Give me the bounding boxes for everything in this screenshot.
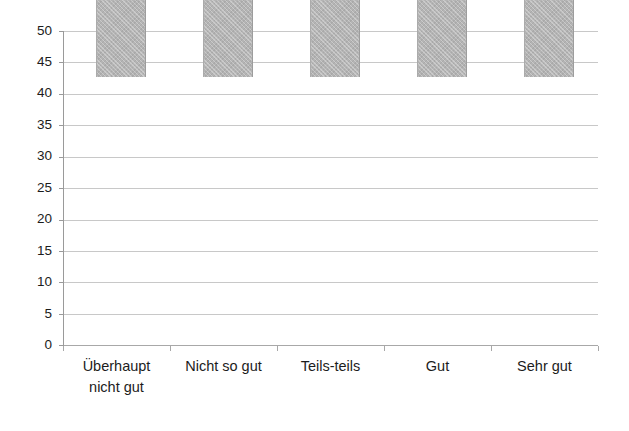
bar-ueberhaupt-nicht-gut [96, 0, 146, 77]
x-tick-label-nicht-so-gut: Nicht so gut [170, 356, 277, 377]
y-axis-line [63, 31, 64, 346]
x-tick-mark-1 [170, 346, 171, 351]
y-axis-tick-labels: 50 45 40 35 30 25 20 15 10 5 0 [0, 0, 56, 431]
x-tick-label-ueberhaupt-nicht-gut: Überhaupt nicht gut [63, 356, 170, 398]
x-tick-mark-0 [63, 346, 64, 351]
plot-area [63, 31, 598, 345]
gridline-20 [63, 220, 598, 221]
y-tick-label-30: 30 [0, 149, 52, 163]
x-tick-mark-5 [598, 346, 599, 351]
y-tick-label-40: 40 [0, 86, 52, 100]
bar-sehr-gut [524, 0, 574, 77]
gridline-25 [63, 188, 598, 189]
gridline-15 [63, 251, 598, 252]
y-tick-label-50: 50 [0, 24, 52, 38]
gridline-10 [63, 282, 598, 283]
x-tick-mark-4 [491, 346, 492, 351]
x-axis-tick-labels: Überhaupt nicht gut Nicht so gut Teils-t… [63, 356, 598, 426]
y-tick-label-10: 10 [0, 275, 52, 289]
gridline-35 [63, 125, 598, 126]
y-tick-label-45: 45 [0, 55, 52, 69]
bar-chart: 50 45 40 35 30 25 20 15 10 5 0 [0, 0, 629, 13]
y-tick-label-35: 35 [0, 118, 52, 132]
bar-series [63, 31, 598, 77]
x-tick-mark-2 [277, 346, 278, 351]
y-tick-label-5: 5 [0, 307, 52, 321]
y-tick-label-25: 25 [0, 181, 52, 195]
x-tick-label-sehr-gut: Sehr gut [491, 356, 598, 377]
gridline-30 [63, 157, 598, 158]
bar-nicht-so-gut [203, 0, 253, 77]
y-tick-label-20: 20 [0, 212, 52, 226]
gridline-baseline-0 [63, 345, 598, 346]
y-tick-label-15: 15 [0, 244, 52, 258]
bar-teils-teils [310, 0, 360, 77]
gridlines [63, 31, 598, 345]
gridline-5 [63, 314, 598, 315]
x-tick-mark-3 [384, 346, 385, 351]
gridline-40 [63, 94, 598, 95]
y-tick-label-0: 0 [0, 338, 52, 352]
bar-gut [417, 0, 467, 77]
x-tick-label-gut: Gut [384, 356, 491, 377]
x-tick-label-teils-teils: Teils-teils [277, 356, 384, 377]
